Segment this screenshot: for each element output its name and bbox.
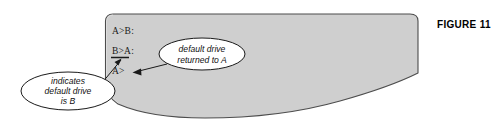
figure-container: A>B: B>A: A> indicates default drive is … [0, 0, 501, 123]
figure-illustration: A>B: B>A: A> indicates default drive is … [0, 0, 501, 123]
left-callout-line-1: indicates [51, 76, 86, 86]
right-callout-bubble [159, 38, 245, 70]
right-callout-line-1: default drive [179, 44, 226, 54]
right-callout: default drive returned to A [159, 38, 245, 70]
screen-prompt-line-1: A>B: [112, 26, 134, 36]
left-callout-line-3: is B [61, 96, 76, 106]
screen-prompt-line-2: B>A: [112, 46, 134, 56]
right-callout-line-2: returned to A [177, 55, 227, 65]
figure-label: FIGURE 11 [437, 19, 491, 30]
left-callout-line-2: default drive [45, 86, 92, 96]
screen-shape [106, 14, 419, 118]
left-callout: indicates default drive is B [21, 72, 115, 110]
screen-prompt-line-3: A> [112, 66, 125, 76]
